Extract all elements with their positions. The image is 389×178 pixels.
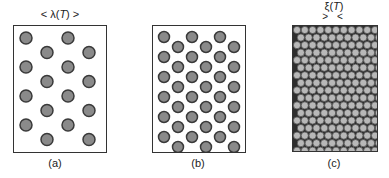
vortex-dot xyxy=(375,34,378,41)
vortex-dot xyxy=(20,61,32,73)
vortex-dot xyxy=(173,142,184,153)
vortex-dot xyxy=(297,94,304,101)
panel-c-dense-lattice xyxy=(292,25,378,152)
vortex-dot xyxy=(201,62,212,73)
vortex-dot xyxy=(336,49,343,56)
vortex-dot xyxy=(332,57,339,64)
xi-arrows: > < xyxy=(314,11,354,22)
vortex-dot xyxy=(20,32,32,44)
vortex-dot xyxy=(352,140,359,147)
caption-b: (b) xyxy=(178,157,218,169)
vortex-dot xyxy=(317,57,324,64)
vortex-dot xyxy=(317,72,324,79)
vortex-dot xyxy=(371,26,378,33)
vortex-dot xyxy=(313,79,320,86)
vortex-dot xyxy=(293,132,300,139)
vortex-dot xyxy=(356,87,363,94)
vortex-dot xyxy=(371,117,378,124)
vortex-dot xyxy=(321,64,328,71)
vortex-dot xyxy=(360,109,367,116)
vortex-lattice-a xyxy=(14,26,107,153)
vortex-dot xyxy=(332,26,339,33)
vortex-dot xyxy=(336,124,343,131)
vortex-dot xyxy=(375,124,378,131)
panel-a-sparse-lattice xyxy=(13,25,107,153)
vortex-dot xyxy=(317,87,324,94)
vortex-dot xyxy=(340,57,347,64)
vortex-dot xyxy=(305,94,312,101)
vortex-dot xyxy=(348,87,355,94)
vortex-dot xyxy=(340,87,347,94)
vortex-dot xyxy=(309,117,316,124)
vortex-dot xyxy=(336,34,343,41)
vortex-dot xyxy=(293,102,300,109)
vortex-dot xyxy=(313,49,320,56)
vortex-dot xyxy=(201,82,212,93)
vortex-dot xyxy=(215,32,226,43)
vortex-dot xyxy=(371,72,378,79)
vortex-dot xyxy=(336,79,343,86)
vortex-dot xyxy=(293,57,300,64)
vortex-dot xyxy=(201,102,212,113)
vortex-dot xyxy=(371,87,378,94)
vortex-dot xyxy=(375,64,378,71)
vortex-dot xyxy=(340,26,347,33)
vortex-dot xyxy=(356,41,363,48)
left-arrow-icon: < xyxy=(41,8,47,20)
vortex-dot xyxy=(344,79,351,86)
vortex-dot xyxy=(332,147,339,152)
vortex-dot xyxy=(313,64,320,71)
vortex-dot xyxy=(41,134,53,146)
vortex-dot xyxy=(187,72,198,83)
vortex-dot xyxy=(293,72,300,79)
vortex-dot xyxy=(348,57,355,64)
vortex-dot xyxy=(309,41,316,48)
vortex-dot xyxy=(364,57,371,64)
vortex-dot xyxy=(352,94,359,101)
vortex-dot xyxy=(364,26,371,33)
vortex-dot xyxy=(173,82,184,93)
vortex-dot xyxy=(356,117,363,124)
vortex-dot xyxy=(41,47,53,59)
vortex-dot xyxy=(41,76,53,88)
vortex-dot xyxy=(317,132,324,139)
vortex-dot xyxy=(317,41,324,48)
vortex-dot xyxy=(344,49,351,56)
vortex-dot xyxy=(313,34,320,41)
vortex-dot xyxy=(332,117,339,124)
vortex-dot xyxy=(187,132,198,143)
vortex-dot xyxy=(325,41,332,48)
vortex-dot xyxy=(321,49,328,56)
vortex-dot xyxy=(159,132,170,143)
vortex-dot xyxy=(159,72,170,83)
vortex-dot xyxy=(309,87,316,94)
vortex-dot xyxy=(336,109,343,116)
panel-b-medium-lattice xyxy=(152,25,246,153)
vortex-dot xyxy=(62,90,74,102)
vortex-dot xyxy=(325,72,332,79)
vortex-dot xyxy=(344,140,351,147)
vortex-dot xyxy=(352,49,359,56)
vortex-dot xyxy=(340,102,347,109)
vortex-dot xyxy=(348,26,355,33)
vortex-dot xyxy=(352,34,359,41)
vortex-dot xyxy=(356,72,363,79)
vortex-dot xyxy=(368,140,375,147)
vortex-dot xyxy=(321,140,328,147)
vortex-dot xyxy=(321,79,328,86)
vortex-dot xyxy=(360,124,367,131)
vortex-dot xyxy=(332,72,339,79)
vortex-dot xyxy=(325,57,332,64)
vortex-dot xyxy=(159,112,170,123)
vortex-dot xyxy=(297,109,304,116)
vortex-dot xyxy=(344,124,351,131)
vortex-dot xyxy=(229,122,240,133)
vortex-dot xyxy=(229,142,240,153)
vortex-dot xyxy=(159,92,170,103)
vortex-dot xyxy=(41,105,53,117)
vortex-dot xyxy=(215,52,226,63)
vortex-dot xyxy=(344,64,351,71)
vortex-dot xyxy=(305,124,312,131)
vortex-dot xyxy=(313,109,320,116)
vortex-dot xyxy=(344,34,351,41)
